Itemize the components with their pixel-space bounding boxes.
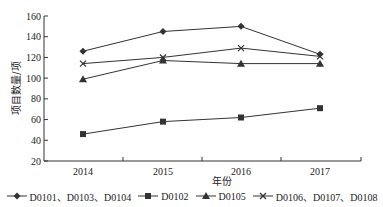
y-tick-label: 100: [26, 73, 41, 84]
y-tick-label: 140: [26, 31, 41, 42]
legend-item: D0106、D0107、D0108: [252, 189, 378, 204]
y-tick-label: 40: [31, 135, 41, 146]
legend-label: D0106、D0107、D0108: [276, 189, 378, 204]
series-triangle: [79, 57, 324, 83]
axes: 204060801001201401602014201520162017: [26, 11, 361, 178]
legend-item: D0105: [195, 191, 246, 202]
y-axis-title: 项目数量/项: [10, 61, 22, 114]
legend-item: D0101、D0103、D0104: [6, 189, 132, 204]
x-tick-label: 2014: [73, 166, 93, 177]
legend-item: D0102: [137, 191, 188, 202]
x-axis-title: 年份: [212, 175, 232, 187]
line-chart: 204060801001201401602014201520162017 项目数…: [0, 0, 383, 187]
series-square: [80, 105, 323, 137]
series-lines: [79, 23, 324, 137]
y-tick-label: 160: [26, 11, 41, 22]
x-marker-icon: [252, 191, 274, 201]
y-tick-label: 60: [31, 114, 41, 125]
y-tick-label: 80: [31, 93, 41, 104]
legend-label: D0105: [219, 191, 246, 202]
x-tick-label: 2015: [153, 166, 173, 177]
square-marker-icon: [137, 191, 159, 201]
y-tick-label: 20: [31, 156, 41, 167]
legend-label: D0101、D0103、D0104: [30, 189, 132, 204]
diamond-marker-icon: [6, 191, 28, 201]
y-tick-label: 120: [26, 52, 41, 63]
legend-label: D0102: [161, 191, 188, 202]
chart-legend: D0101、D0103、D0104D0102D0105D0106、D0107、D…: [0, 187, 383, 205]
x-tick-label: 2017: [310, 166, 330, 177]
triangle-marker-icon: [195, 191, 217, 201]
x-tick-label: 2016: [231, 166, 251, 177]
